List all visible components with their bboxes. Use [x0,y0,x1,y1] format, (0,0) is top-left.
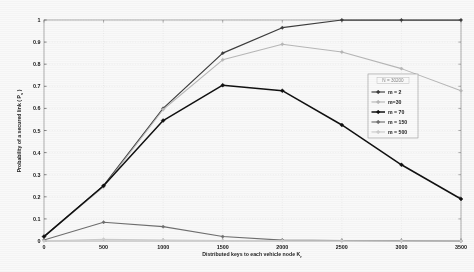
legend-label: m=30 [388,99,402,105]
x-tick-label: 1500 [217,244,229,250]
y-tick-label: 0.2 [33,194,41,200]
legend-title: N = 30200 [382,78,404,83]
legend-label: m = 70 [388,109,404,115]
x-tick-label: 3000 [395,244,407,250]
x-tick-label: 2000 [276,244,288,250]
legend-label: m = 150 [388,119,407,125]
x-tick-label: 2500 [336,244,348,250]
y-tick-label: 0 [38,238,41,244]
y-tick-label: 0.5 [33,128,41,134]
y-tick-label: 1 [38,17,41,23]
chart-legend[interactable]: N = 30200m = 2m=30m = 70m = 150m = 500 [368,74,418,138]
line-chart: 0500100015002000250030003500 00.10.20.30… [0,0,474,272]
y-tick-label: 0.3 [33,172,41,178]
x-tick-label: 3500 [455,244,467,250]
y-tick-label: 0.8 [33,61,41,67]
figure-canvas: 0500100015002000250030003500 00.10.20.30… [0,0,474,272]
y-tick-label: 0.6 [33,105,41,111]
legend-label: m = 2 [388,89,402,95]
legend-label: m = 500 [388,129,407,135]
y-tick-label: 0.1 [33,216,41,222]
y-tick-label: 0.4 [33,150,41,156]
x-tick-label: 1000 [157,244,169,250]
x-tick-label: 500 [99,244,108,250]
y-tick-label: 0.7 [33,83,41,89]
x-tick-label: 0 [43,244,46,250]
y-tick-label: 0.9 [33,39,41,45]
